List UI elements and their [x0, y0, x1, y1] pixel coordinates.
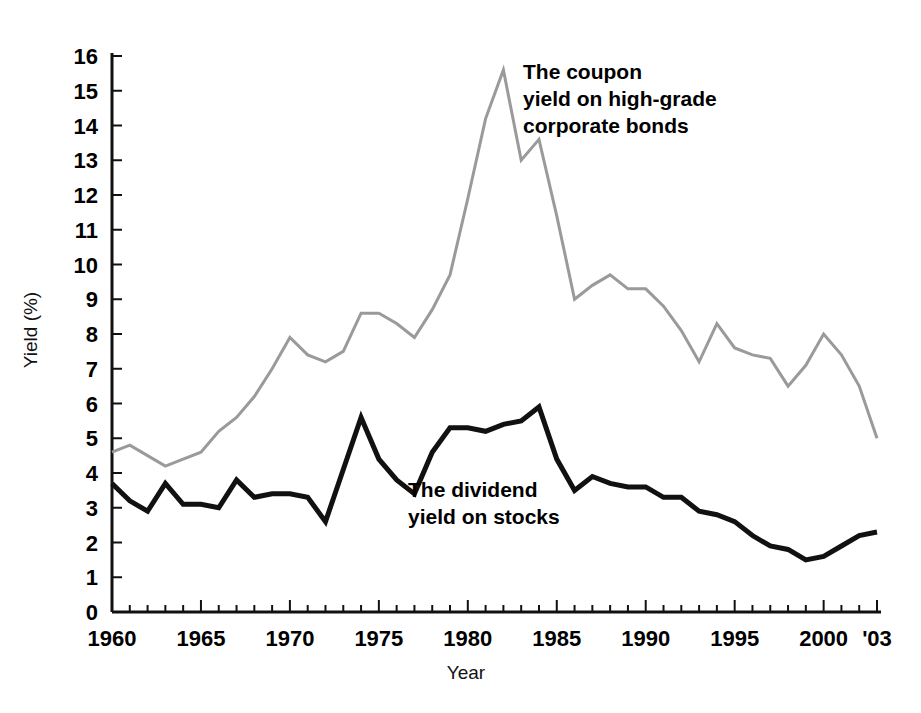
y-tick-label: 11: [75, 218, 98, 243]
y-tick-label: 10: [74, 253, 98, 278]
chart-container: 012345678910111213141516 196019651970197…: [0, 0, 921, 713]
annotation-line: yield on high-grade: [523, 87, 717, 110]
y-tick-label: 13: [74, 148, 98, 173]
y-tick-label: 7: [86, 357, 98, 382]
yield-line-chart: 012345678910111213141516 196019651970197…: [0, 0, 921, 713]
x-tick-label: 1990: [621, 626, 670, 651]
y-axis-title: Yield (%): [20, 292, 41, 368]
x-tick-label: 1995: [710, 626, 759, 651]
x-tick-label: '03: [862, 626, 892, 651]
y-tick-label: 14: [74, 114, 99, 139]
y-tick-label: 5: [86, 426, 98, 451]
annotation-line: corporate bonds: [523, 114, 689, 137]
y-tick-label: 15: [74, 79, 98, 104]
y-tick-label: 1: [86, 565, 98, 590]
x-tick-label: 2000: [799, 626, 848, 651]
y-tick-label: 6: [86, 392, 98, 417]
annotation-line: The coupon: [523, 60, 642, 83]
stock-series-annotation: The dividendyield on stocks: [408, 478, 560, 528]
x-tick-label: 1965: [176, 626, 225, 651]
y-tick-label: 3: [86, 496, 98, 521]
y-tick-label: 9: [86, 287, 98, 312]
x-tick-label: 1960: [88, 626, 137, 651]
y-tick-label: 8: [86, 322, 98, 347]
bond-yield-line: [112, 70, 877, 466]
y-tick-label: 4: [86, 461, 99, 486]
x-tick-label: 1985: [532, 626, 581, 651]
chart-axes: [112, 53, 881, 612]
chart-annotations: The couponyield on high-gradecorporate b…: [408, 60, 717, 528]
y-tick-label: 12: [74, 183, 98, 208]
y-axis-tick-labels: 012345678910111213141516: [74, 44, 99, 625]
x-tick-label: 1975: [354, 626, 403, 651]
y-tick-label: 0: [86, 600, 98, 625]
chart-tick-marks: [112, 56, 877, 612]
bond-series-annotation: The couponyield on high-gradecorporate b…: [523, 60, 717, 137]
x-axis-tick-labels: 196019651970197519801985199019952000'03: [88, 626, 892, 651]
annotation-line: The dividend: [408, 478, 538, 501]
x-tick-label: 1980: [443, 626, 492, 651]
x-tick-label: 1970: [265, 626, 314, 651]
y-tick-label: 2: [86, 531, 98, 556]
x-axis-title: Year: [447, 662, 486, 683]
y-tick-label: 16: [74, 44, 98, 69]
annotation-line: yield on stocks: [408, 505, 560, 528]
